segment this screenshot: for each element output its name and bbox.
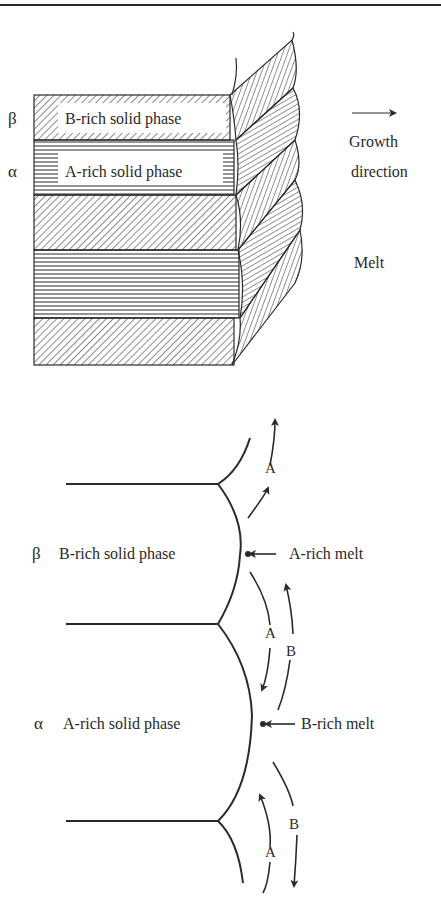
beta-symbol-top: β bbox=[8, 109, 17, 128]
alpha-phase-label-top: A-rich solid phase bbox=[65, 163, 182, 181]
diffusion-label-a-top: A bbox=[265, 460, 276, 476]
a-rich-melt-label: A-rich melt bbox=[289, 545, 364, 562]
diffusion-label-b-bottom: B bbox=[289, 816, 299, 832]
lamella-beta-3 bbox=[34, 318, 234, 365]
interface-boundaries bbox=[66, 438, 252, 883]
beta-phase-label-top: B-rich solid phase bbox=[65, 110, 181, 128]
alpha-symbol-top: α bbox=[8, 162, 17, 181]
eutectic-lamellar-growth-diagram: β B-rich solid phase α A-rich solid phas… bbox=[0, 0, 441, 915]
melt-label: Melt bbox=[354, 254, 385, 271]
lamellar-block bbox=[34, 32, 303, 365]
b-rich-melt-label: B-rich melt bbox=[301, 715, 375, 732]
alpha-phase-label-bottom: A-rich solid phase bbox=[63, 715, 180, 733]
growth-label-line1: Growth bbox=[349, 133, 398, 150]
alpha-symbol-bottom: α bbox=[34, 714, 43, 733]
diffusion-label-a-bottom: A bbox=[265, 844, 276, 860]
beta-symbol-bottom: β bbox=[32, 544, 41, 563]
b-rich-melt-dot bbox=[260, 721, 266, 727]
a-rich-melt-dot bbox=[245, 551, 251, 557]
diffusion-label-b-mid: B bbox=[286, 643, 296, 659]
lamella-beta-2 bbox=[34, 195, 236, 250]
lamella-alpha-2 bbox=[34, 250, 239, 318]
beta-phase-label-bottom: B-rich solid phase bbox=[59, 545, 175, 563]
diffusion-label-a-mid: A bbox=[265, 625, 276, 641]
growth-label-line2: direction bbox=[351, 163, 408, 180]
